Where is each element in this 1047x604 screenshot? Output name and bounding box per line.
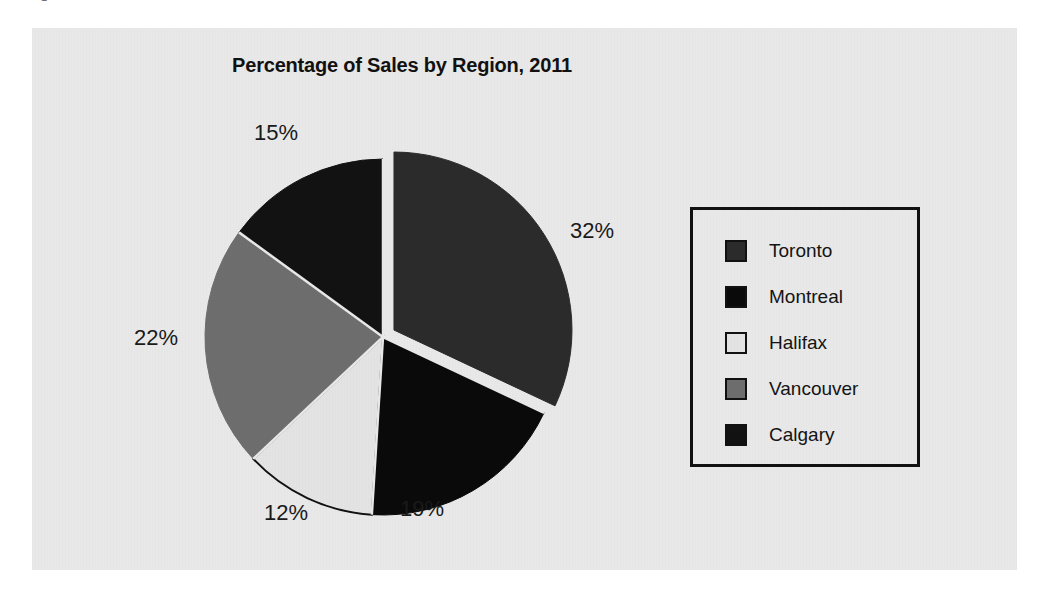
figure-caption-number: Figure	[26, 0, 73, 1]
legend-item-label: Calgary	[769, 424, 834, 446]
pie-label-montreal: 19%	[400, 496, 444, 522]
legend-item-label: Montreal	[769, 286, 843, 308]
figure-caption-kind: Pie Chart	[150, 0, 213, 1]
legend-item-halifax[interactable]: Halifax	[693, 320, 917, 366]
pie-label-halifax: 12%	[264, 500, 308, 526]
figure-panel: Percentage of Sales by Region, 2011 32% …	[32, 28, 1017, 570]
legend-item-calgary[interactable]: Calgary	[693, 412, 917, 458]
pie-label-vancouver: 22%	[134, 325, 178, 351]
legend-item-montreal[interactable]: Montreal	[693, 274, 917, 320]
legend-item-label: Vancouver	[769, 378, 858, 400]
legend-swatch-icon	[725, 240, 747, 262]
legend-swatch-icon	[725, 332, 747, 354]
legend-item-label: Toronto	[769, 240, 832, 262]
legend-swatch-icon	[725, 424, 747, 446]
pie-label-calgary: 15%	[254, 120, 298, 146]
chart-legend: TorontoMontrealHalifaxVancouverCalgary	[690, 207, 920, 467]
legend-item-vancouver[interactable]: Vancouver	[693, 366, 917, 412]
legend-item-label: Halifax	[769, 332, 827, 354]
figure-caption-strip: Figure Pie Chart	[0, 0, 1047, 22]
legend-swatch-icon	[725, 286, 747, 308]
pie-label-toronto: 32%	[570, 218, 614, 244]
pie-slice-group	[205, 152, 572, 515]
legend-swatch-icon	[725, 378, 747, 400]
legend-item-toronto[interactable]: Toronto	[693, 228, 917, 274]
